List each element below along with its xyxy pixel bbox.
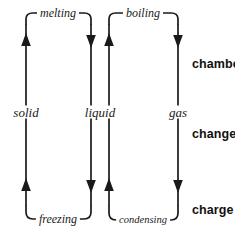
arrowhead-liquid-down-top xyxy=(86,35,96,48)
lower-arrowheads xyxy=(21,178,183,193)
transition-label-freezing: freezing xyxy=(36,213,80,225)
arrowhead-solid-up-top xyxy=(21,33,31,46)
arrowhead-gas-down-bottom xyxy=(173,180,183,193)
arrowhead-liquid-up-top xyxy=(104,33,114,46)
transition-label-melting: melting xyxy=(37,7,79,19)
connector-boiling-right xyxy=(162,13,178,24)
state-change-diagram: solid liquid gas melting boiling freezin… xyxy=(0,0,235,232)
phase-label-liquid: liquid xyxy=(83,106,117,119)
phase-label-solid: solid xyxy=(11,106,40,119)
arrowhead-liquid-up-bottom xyxy=(104,178,114,191)
transition-label-boiling: boiling xyxy=(123,7,163,19)
transition-label-condensing: condensing xyxy=(116,215,170,226)
phase-label-gas: gas xyxy=(167,106,189,119)
side-label-chamber: chambe xyxy=(192,58,235,71)
side-label-charge: charge xyxy=(192,204,234,217)
side-label-change: change xyxy=(192,128,235,141)
arrowhead-liquid-down-bottom xyxy=(86,180,96,193)
upper-arrowheads xyxy=(21,33,183,48)
arrowhead-solid-up-bottom xyxy=(21,178,31,191)
arrowhead-gas-down-top xyxy=(173,35,183,48)
